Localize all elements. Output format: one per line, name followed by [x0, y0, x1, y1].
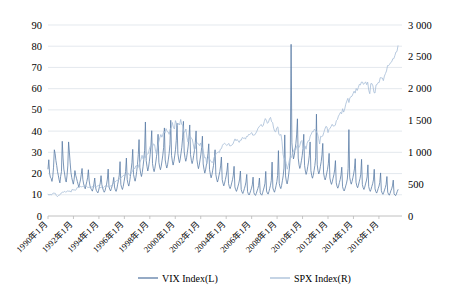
y-axis-right-ticks: 05001 0001 5002 0002 5003 000 — [408, 20, 432, 222]
y-axis-right-tick-label: 2 500 — [408, 51, 432, 62]
y-axis-left-tick-label: 70 — [32, 62, 43, 73]
y-axis-right-tick-label: 1 500 — [408, 115, 432, 126]
y-axis-left-tick-label: 10 — [32, 189, 43, 200]
y-axis-left-ticks: 0102030405060708090 — [32, 20, 43, 222]
y-axis-left-tick-label: 60 — [32, 83, 43, 94]
line-chart: 0102030405060708090 05001 0001 5002 0002… — [0, 0, 452, 296]
y-axis-right-tick-label: 1 000 — [408, 147, 432, 158]
y-axis-left-tick-label: 30 — [32, 147, 43, 158]
y-axis-right-tick-label: 500 — [408, 179, 424, 190]
x-axis-ticks: 1990年1月1992年1月1994年1月1996年1月1998年1月2000年… — [14, 216, 381, 254]
y-axis-left-tick-label: 90 — [32, 20, 43, 31]
legend-label-0: VIX Index(L) — [162, 273, 218, 285]
chart-legend: VIX Index(L)SPX Index(R) — [138, 273, 351, 285]
y-axis-left-tick-label: 50 — [32, 104, 43, 115]
y-axis-left-tick-label: 20 — [32, 168, 43, 179]
series-line-vix — [48, 44, 398, 195]
series-line-spx — [48, 46, 398, 197]
y-axis-left-tick-label: 40 — [32, 126, 43, 137]
y-axis-right-tick-label: 2 000 — [408, 83, 432, 94]
legend-label-1: SPX Index(R) — [294, 273, 351, 285]
y-axis-right-tick-label: 3 000 — [408, 20, 432, 31]
y-axis-left-tick-label: 80 — [32, 41, 43, 52]
chart-container: 0102030405060708090 05001 0001 5002 0002… — [0, 0, 452, 296]
y-axis-right-tick-label: 0 — [408, 211, 413, 222]
